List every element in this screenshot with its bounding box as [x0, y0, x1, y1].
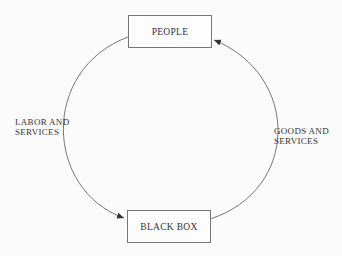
goods-services-label: GOODS AND SERVICES — [274, 126, 329, 146]
goods-services-arrow — [210, 40, 278, 219]
people-label: PEOPLE — [152, 27, 189, 37]
black-box-label: BLACK BOX — [140, 222, 197, 232]
labor-services-label: LABOR AND SERVICES — [15, 117, 69, 137]
black-box-node: BLACK BOX — [127, 210, 211, 243]
people-node: PEOPLE — [128, 15, 212, 48]
labor-services-arrow — [63, 37, 128, 218]
